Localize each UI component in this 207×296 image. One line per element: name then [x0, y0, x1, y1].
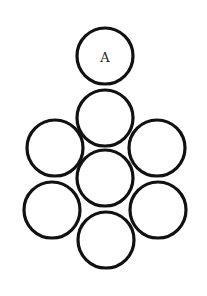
circle-lower-right [130, 182, 186, 238]
circle-upper-right [129, 120, 185, 176]
circles-group: A [24, 28, 186, 268]
circle-lower-left [24, 182, 80, 238]
circle-bottom [78, 212, 134, 268]
circle-center [77, 150, 133, 206]
circle-label-A: A [99, 50, 110, 65]
circle-upper-left [27, 120, 83, 176]
circle-top [77, 90, 133, 146]
circle-diagram: A [0, 0, 207, 296]
